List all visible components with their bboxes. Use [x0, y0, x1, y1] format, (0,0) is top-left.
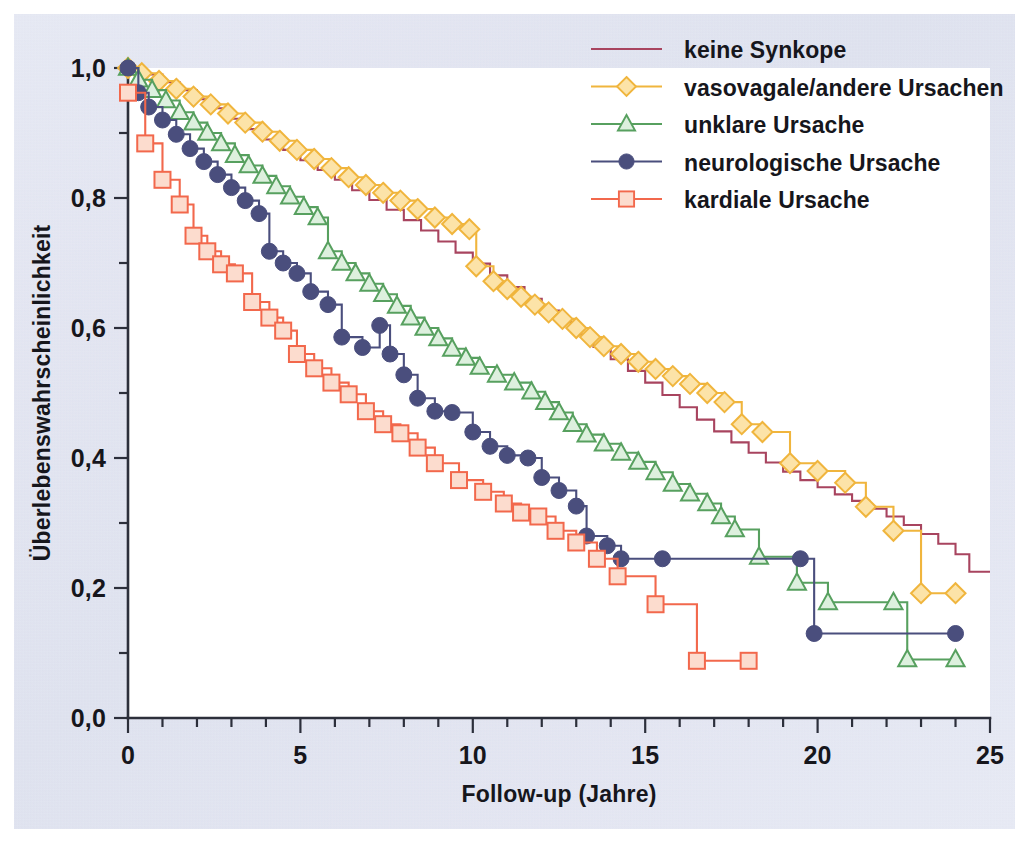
legend-item-label: vasovagale/andere Ursachen: [684, 75, 1004, 101]
square-marker: [137, 135, 153, 151]
circle-marker: [568, 498, 584, 514]
x-tick-label: 10: [459, 741, 487, 769]
circle-marker: [237, 193, 253, 209]
square-marker: [227, 265, 243, 281]
x-axis-minor-ticks: [162, 718, 955, 727]
circle-marker: [499, 447, 515, 463]
y-tick-label: 0,2: [71, 574, 106, 602]
square-marker: [289, 346, 305, 362]
square-marker: [689, 653, 705, 669]
y-axis-title: Überlebenswahrscheinlichkeit: [29, 225, 55, 562]
circle-marker: [654, 551, 670, 567]
square-marker: [427, 455, 443, 471]
square-marker: [568, 535, 584, 551]
circle-marker: [396, 367, 412, 383]
circle-marker: [141, 99, 157, 115]
x-tick-label: 25: [976, 741, 1004, 769]
circle-marker: [427, 403, 443, 419]
x-tick-label: 5: [293, 741, 307, 769]
square-marker: [475, 484, 491, 500]
circle-marker: [334, 329, 350, 345]
square-marker: [120, 85, 136, 101]
y-tick-label: 0,8: [71, 184, 106, 212]
circle-marker: [410, 390, 426, 406]
square-marker: [172, 197, 188, 213]
square-marker: [589, 551, 605, 567]
circle-marker: [223, 180, 239, 196]
square-marker: [741, 653, 757, 669]
legend-item[interactable]: keine Synkope: [591, 37, 846, 63]
circle-marker: [182, 141, 198, 157]
y-tick-label: 1,0: [71, 54, 106, 82]
x-axis-tick-labels: 0510152025: [121, 741, 1004, 769]
y-tick-label: 0,4: [71, 444, 106, 472]
circle-marker: [275, 255, 291, 271]
y-tick-label: 0,0: [71, 704, 106, 732]
circle-marker: [948, 626, 964, 642]
x-tick-label: 0: [121, 741, 135, 769]
figure-panel: 0,00,20,40,60,81,0 0510152025 Follow-up …: [14, 14, 1015, 829]
circle-marker: [520, 450, 536, 466]
kaplan-meier-chart: 0,00,20,40,60,81,0 0510152025 Follow-up …: [14, 14, 1015, 829]
circle-marker: [354, 340, 370, 356]
square-marker: [496, 496, 512, 512]
circle-marker: [372, 317, 388, 333]
square-marker: [451, 472, 467, 488]
square-marker: [548, 523, 564, 539]
circle-marker: [289, 265, 305, 281]
circle-marker: [444, 405, 460, 421]
square-marker: [186, 228, 202, 244]
circle-marker: [806, 626, 822, 642]
y-axis-tick-labels: 0,00,20,40,60,81,0: [71, 54, 106, 732]
square-marker: [410, 440, 426, 456]
circle-marker: [382, 346, 398, 362]
circle-marker: [196, 154, 212, 170]
square-marker: [610, 568, 626, 584]
circle-marker: [303, 284, 319, 300]
x-axis-major-ticks: [128, 718, 990, 733]
circle-marker: [210, 167, 226, 183]
square-marker: [392, 425, 408, 441]
square-marker: [619, 191, 634, 206]
y-axis-minor-ticks: [119, 133, 128, 653]
circle-marker: [465, 424, 481, 440]
circle-marker: [619, 154, 634, 169]
circle-marker: [251, 206, 267, 222]
square-marker: [358, 403, 374, 419]
circle-marker: [120, 60, 136, 76]
square-marker: [275, 323, 291, 339]
legend-item-label: keine Synkope: [684, 37, 846, 63]
legend-item-label: neurologische Ursache: [684, 150, 940, 176]
square-marker: [648, 596, 664, 612]
circle-marker: [154, 112, 170, 128]
square-marker: [323, 375, 339, 391]
square-marker: [341, 386, 357, 402]
square-marker: [154, 172, 170, 188]
figure-root: 0,00,20,40,60,81,0 0510152025 Follow-up …: [0, 0, 1029, 857]
square-marker: [375, 416, 391, 432]
x-tick-label: 20: [803, 741, 831, 769]
circle-marker: [551, 483, 567, 499]
square-marker: [244, 294, 260, 310]
legend-item-label: kardiale Ursache: [684, 187, 870, 213]
circle-marker: [792, 551, 808, 567]
circle-marker: [482, 438, 498, 454]
legend-item-label: unklare Ursache: [684, 112, 864, 138]
circle-marker: [261, 243, 277, 259]
square-marker: [513, 505, 529, 521]
circle-marker: [320, 297, 336, 313]
circle-marker: [534, 470, 550, 486]
y-tick-label: 0,6: [71, 314, 106, 342]
x-axis-title: Follow-up (Jahre): [461, 781, 656, 807]
square-marker: [306, 360, 322, 376]
x-tick-label: 15: [631, 741, 659, 769]
square-marker: [530, 509, 546, 525]
circle-marker: [168, 126, 184, 142]
